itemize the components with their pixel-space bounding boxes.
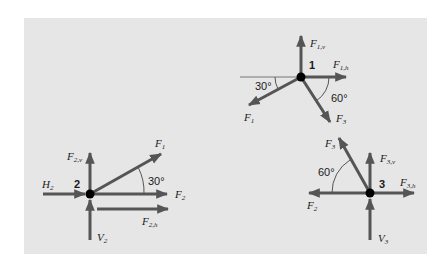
f2v-label: F2,v bbox=[66, 150, 83, 164]
angle-arc-30 bbox=[138, 167, 144, 194]
joint-2-node bbox=[86, 190, 95, 199]
h2-label: H2 bbox=[41, 178, 54, 192]
f3-label: F3 bbox=[335, 112, 347, 126]
angle-arc-60 bbox=[316, 77, 329, 101]
f1-label: F1 bbox=[154, 137, 165, 151]
f3-arrow bbox=[301, 77, 330, 122]
f2-label: F2 bbox=[306, 199, 318, 213]
f1-label: F1 bbox=[243, 111, 254, 125]
f2h-label: F2,h bbox=[141, 215, 158, 229]
f1h-label: F1,h bbox=[332, 58, 349, 72]
joint-1-node bbox=[297, 73, 306, 82]
angle-30-label: 30° bbox=[148, 175, 165, 187]
joint-1-number: 1 bbox=[309, 59, 315, 71]
angle-60-label: 60° bbox=[318, 166, 335, 178]
angle-arc-30 bbox=[275, 77, 278, 89]
joint-3-node bbox=[366, 189, 375, 198]
v3-label: V3 bbox=[378, 232, 389, 246]
joint-3-diagram: 3 60° F3 F3,v F3,h F2 V3 bbox=[306, 137, 416, 246]
f3h-label: F3,h bbox=[399, 176, 416, 190]
angle-30-label: 30° bbox=[255, 80, 272, 92]
joint-2-number: 2 bbox=[74, 178, 80, 190]
v2-label: V2 bbox=[97, 231, 108, 245]
angle-60-label: 60° bbox=[331, 92, 348, 104]
free-body-diagrams: 1 30° 60° F1,v F1,h F1 F3 2 30° F2,v H2 … bbox=[0, 0, 448, 264]
f1-arrow bbox=[90, 154, 161, 194]
f2-label: F2 bbox=[174, 188, 186, 202]
joint-1-diagram: 1 30° 60° F1,v F1,h F1 F3 bbox=[240, 36, 349, 126]
f3v-label: F3,v bbox=[379, 152, 396, 166]
angle-arc-60 bbox=[332, 160, 350, 193]
f1v-label: F1,v bbox=[309, 37, 326, 51]
f3-label: F3 bbox=[324, 137, 336, 151]
joint-3-number: 3 bbox=[379, 178, 385, 190]
joint-2-diagram: 2 30° F2,v H2 F1 F2 F2,h V2 bbox=[41, 137, 186, 245]
